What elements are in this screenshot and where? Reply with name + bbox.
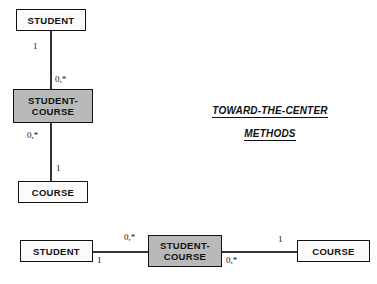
vertical-connector-studentcourse-to-course bbox=[50, 123, 52, 181]
caption-line-1-text: TOWARD-THE-CENTER bbox=[212, 105, 327, 118]
horizontal-connector-student-to-studentcourse bbox=[93, 251, 148, 253]
vertical-cardinality-studentcourse-bottom-end: 0,* bbox=[27, 130, 38, 140]
horizontal-cardinality-course-end: 1 bbox=[278, 234, 283, 244]
caption-line-2: METHODS bbox=[190, 128, 350, 139]
horizontal-cardinality-studentcourse-right-end: 0,* bbox=[226, 255, 237, 265]
vertical-cardinality-studentcourse-top-end: 0,* bbox=[55, 74, 66, 84]
caption-block: TOWARD-THE-CENTER METHODS bbox=[190, 105, 350, 151]
vertical-cardinality-student-end: 1 bbox=[33, 41, 38, 51]
caption-line-1: TOWARD-THE-CENTER bbox=[190, 105, 350, 116]
vertical-entity-student-course[interactable]: STUDENT- COURSE bbox=[13, 89, 93, 123]
horizontal-entity-student-course[interactable]: STUDENT- COURSE bbox=[148, 235, 222, 267]
vertical-connector-student-to-studentcourse bbox=[50, 31, 52, 89]
horizontal-entity-student[interactable]: STUDENT bbox=[20, 240, 93, 262]
caption-line-2-text: METHODS bbox=[244, 128, 295, 141]
horizontal-cardinality-studentcourse-left-end: 0,* bbox=[124, 232, 135, 242]
horizontal-entity-course[interactable]: COURSE bbox=[297, 240, 370, 262]
vertical-cardinality-course-end: 1 bbox=[56, 163, 61, 173]
vertical-entity-student[interactable]: STUDENT bbox=[16, 9, 86, 31]
horizontal-cardinality-student-end: 1 bbox=[97, 255, 102, 265]
vertical-entity-course[interactable]: COURSE bbox=[18, 181, 88, 203]
horizontal-connector-studentcourse-to-course bbox=[222, 251, 297, 253]
diagram-canvas: STUDENT 1 0,* STUDENT- COURSE 0,* 1 COUR… bbox=[0, 0, 377, 284]
